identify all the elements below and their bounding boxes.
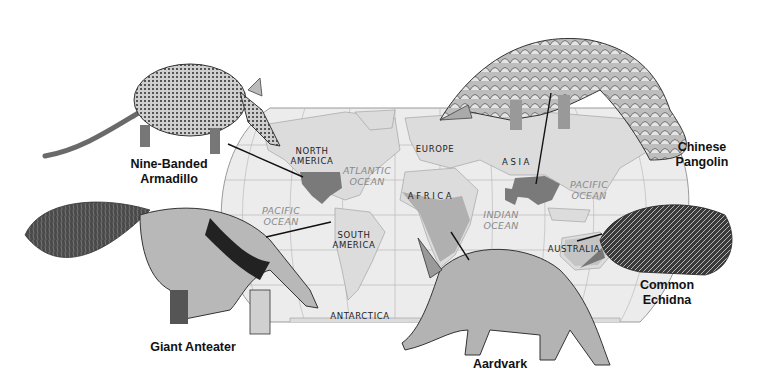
indian-ocean-label: INDIAN OCEAN: [476, 209, 526, 231]
pacific-east-line1: PACIFIC: [564, 179, 614, 190]
pacific-west-line2: OCEAN: [256, 216, 306, 227]
north-america-line2: AMERICA: [282, 156, 342, 166]
australia-label: AUSTRALIA: [544, 244, 604, 254]
armadillo-label-line2: Armadillo: [114, 172, 224, 187]
anteater-label: Giant Anteater: [138, 340, 248, 355]
animal-range-diagram: Nine-Banded Armadillo Chinese Pangolin G…: [0, 0, 765, 389]
south-america-line2: AMERICA: [324, 240, 384, 250]
aardvark-label-line1: Aardvark: [455, 357, 545, 372]
aardvark-label: Aardvark: [455, 357, 545, 372]
armadillo-label: Nine-Banded Armadillo: [114, 157, 224, 187]
pangolin-label-line2: Pangolin: [662, 155, 742, 170]
africa-label: AFRICA: [400, 191, 462, 201]
echidna-label-line1: Common: [627, 278, 707, 293]
asia-label: ASIA: [497, 157, 537, 167]
pacific-ocean-west-label: PACIFIC OCEAN: [256, 205, 306, 227]
atlantic-line1: ATLANTIC: [337, 165, 397, 176]
indian-line1: INDIAN: [476, 209, 526, 220]
echidna-label-line2: Echidna: [627, 293, 707, 308]
indian-line2: OCEAN: [476, 220, 526, 231]
echidna-label: Common Echidna: [627, 278, 707, 308]
anteater-label-line1: Giant Anteater: [138, 340, 248, 355]
atlantic-line2: OCEAN: [337, 176, 397, 187]
pangolin-label-line1: Chinese: [662, 140, 742, 155]
europe-label: EUROPE: [410, 144, 460, 154]
pangolin-label: Chinese Pangolin: [662, 140, 742, 170]
south-america-label: SOUTH AMERICA: [324, 230, 384, 250]
north-america-label: NORTH AMERICA: [282, 146, 342, 166]
indonesia-land: [548, 208, 590, 222]
pacific-west-line1: PACIFIC: [256, 205, 306, 216]
armadillo-label-line1: Nine-Banded: [114, 157, 224, 172]
south-america-line1: SOUTH: [324, 230, 384, 240]
atlantic-ocean-label: ATLANTIC OCEAN: [337, 165, 397, 187]
pacific-east-line2: OCEAN: [564, 190, 614, 201]
illustration-canvas: [0, 0, 765, 389]
antarctica-label: ANTARCTICA: [325, 311, 395, 321]
pacific-ocean-east-label: PACIFIC OCEAN: [564, 179, 614, 201]
north-america-line1: NORTH: [282, 146, 342, 156]
